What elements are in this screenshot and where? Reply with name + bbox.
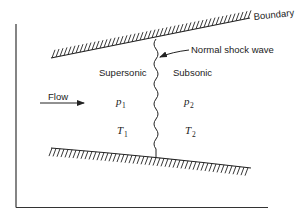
subsonic-label: Subsonic xyxy=(173,67,212,78)
downstream-temperature: T 2 xyxy=(185,124,196,139)
supersonic-label: Supersonic xyxy=(99,67,147,78)
svg-text:p: p xyxy=(115,95,122,107)
boundary-label: Boundary xyxy=(253,7,295,22)
upstream-pressure: p 1 xyxy=(115,95,126,110)
shock-label-arrow xyxy=(160,50,189,57)
shock-wave-line xyxy=(154,39,158,157)
downstream-pressure: p 2 xyxy=(183,95,194,110)
svg-text:1: 1 xyxy=(122,101,126,110)
svg-text:p: p xyxy=(183,95,190,107)
svg-text:2: 2 xyxy=(192,130,196,139)
svg-text:T: T xyxy=(185,124,192,136)
bottom-boundary-wall xyxy=(49,148,251,176)
shock-label: Normal shock wave xyxy=(191,44,274,55)
svg-text:2: 2 xyxy=(190,101,194,110)
upstream-temperature: T 1 xyxy=(117,124,128,139)
flow-label: Flow xyxy=(48,91,68,102)
svg-text:T: T xyxy=(117,124,124,136)
svg-text:1: 1 xyxy=(124,130,128,139)
diagram-canvas: Boundary Normal shock wave Supersonic Su… xyxy=(0,0,307,217)
